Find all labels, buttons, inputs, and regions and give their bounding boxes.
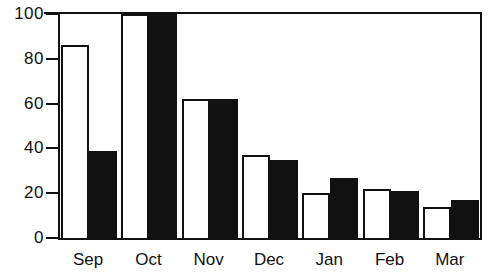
y-axis-tick-mark (46, 237, 58, 239)
y-axis-tick-mark (46, 192, 58, 194)
bar-group-oct (121, 14, 177, 238)
x-axis-tick-label: Mar (415, 250, 485, 270)
y-axis-tick-mark (46, 58, 58, 60)
bar-group-sep (61, 14, 117, 238)
bar-open-dec (242, 155, 270, 238)
bar-group-feb (363, 14, 419, 238)
bar-filled-sep (89, 151, 117, 238)
plot-area (58, 14, 480, 238)
bar-filled-dec (270, 160, 298, 238)
y-axis-tick-label: 20 (2, 184, 44, 201)
bar-open-sep (61, 45, 89, 238)
bar-chart: 020406080100 SepOctNovDecJanFebMar (0, 0, 492, 280)
bar-group-mar (423, 14, 479, 238)
y-axis-tick-label: 60 (2, 95, 44, 112)
bar-filled-jan (330, 178, 358, 238)
bar-group-dec (242, 14, 298, 238)
y-axis-tick-mark (46, 103, 58, 105)
bar-open-jan (302, 193, 330, 238)
y-axis: 020406080100 (0, 0, 44, 280)
bar-group-jan (302, 14, 358, 238)
bar-open-oct (121, 14, 149, 238)
bar-open-nov (182, 99, 210, 238)
bar-filled-nov (210, 99, 238, 238)
y-axis-tick-label: 100 (2, 5, 44, 22)
y-axis-tick-label: 80 (2, 50, 44, 67)
x-axis: SepOctNovDecJanFebMar (58, 244, 482, 276)
bar-open-mar (423, 207, 451, 238)
plot-right-border (480, 12, 482, 240)
y-axis-tick-label: 40 (2, 139, 44, 156)
y-axis-tick-mark (46, 147, 58, 149)
bar-group-nov (182, 14, 238, 238)
bar-filled-feb (391, 191, 419, 238)
bar-filled-oct (149, 14, 177, 238)
x-axis-line (58, 238, 482, 240)
bar-filled-mar (451, 200, 479, 238)
y-axis-tick-label: 0 (2, 229, 44, 246)
bar-open-feb (363, 189, 391, 238)
